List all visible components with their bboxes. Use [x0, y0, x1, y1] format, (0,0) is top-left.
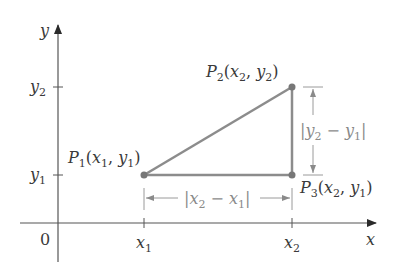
p2-label: P2(x2, y2): [205, 62, 279, 84]
p1-label: P1(x1, y1): [67, 148, 141, 170]
right-triangle: [141, 84, 296, 179]
point-p3: [289, 172, 296, 179]
point-p1: [141, 172, 148, 179]
y2-tick-label: y2: [29, 77, 46, 99]
hypotenuse: [144, 87, 292, 175]
vertical-dimension: |y2 − y1|: [300, 87, 366, 175]
p3-label: P3(x2, y1): [299, 178, 373, 200]
y1-tick-label: y1: [29, 165, 46, 187]
x-axis-label: x: [366, 230, 375, 249]
origin-label: 0: [40, 230, 50, 249]
distance-diagram: y x 0 x1 x2 y2 y1 P1(x1, y1) P2(x2, y2) …: [0, 0, 394, 275]
x2-tick-label: x2: [284, 233, 300, 255]
horizontal-distance-label: |x2 − x1|: [184, 189, 250, 211]
point-p2: [289, 84, 296, 91]
y-axis-label: y: [39, 21, 50, 40]
horizontal-dimension: |x2 − x1|: [144, 188, 292, 211]
vertical-distance-label: |y2 − y1|: [300, 121, 366, 143]
x1-tick-label: x1: [136, 233, 152, 255]
